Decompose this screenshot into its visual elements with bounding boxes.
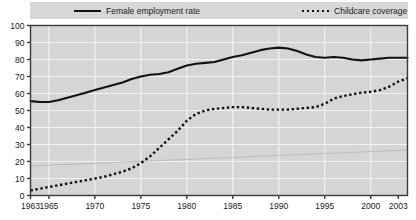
x-axis-labels: 1963196519701975198019851990199520002003 (21, 201, 408, 211)
y-tick-label: 80 (15, 55, 25, 65)
x-tick-label: 1980 (177, 201, 196, 211)
chart-plot: 0102030405060708090100 19631965197019751… (0, 0, 416, 220)
y-tick-label: 70 (15, 72, 25, 82)
y-tick-label: 30 (15, 140, 25, 150)
x-tick-label: 1965 (39, 201, 58, 211)
chart-figure: Female employment rate Childcare coverag… (0, 0, 416, 220)
x-tick-label: 1990 (269, 201, 288, 211)
y-tick-label: 60 (15, 89, 25, 99)
x-tick-label: 1975 (131, 201, 150, 211)
y-axis-labels: 0102030405060708090100 (10, 21, 24, 201)
y-tick-label: 40 (15, 123, 25, 133)
x-tick-label: 2003 (389, 201, 408, 211)
x-tick-label: 2000 (361, 201, 380, 211)
y-tick-label: 10 (15, 174, 25, 184)
x-tick-label: 1995 (315, 201, 334, 211)
x-tick-label: 1985 (223, 201, 242, 211)
y-tick-label: 20 (15, 157, 25, 167)
x-tick-label: 1963 (21, 201, 40, 211)
y-tick-label: 100 (10, 21, 24, 31)
x-tick-label: 1970 (85, 201, 104, 211)
y-tick-label: 90 (15, 38, 25, 48)
y-tick-label: 0 (20, 191, 25, 201)
y-tick-label: 50 (15, 106, 25, 116)
